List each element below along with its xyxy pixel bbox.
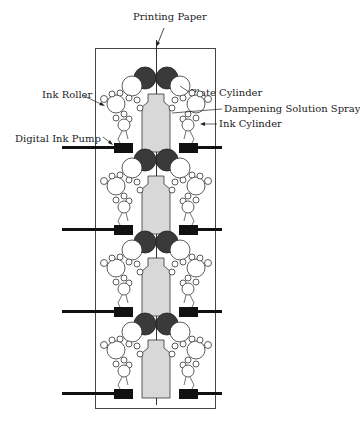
- printing-unit-1: [62, 67, 222, 153]
- printing-unit-4: [62, 313, 222, 399]
- printing-unit-2: [62, 149, 222, 235]
- printing-unit-3: [62, 231, 222, 317]
